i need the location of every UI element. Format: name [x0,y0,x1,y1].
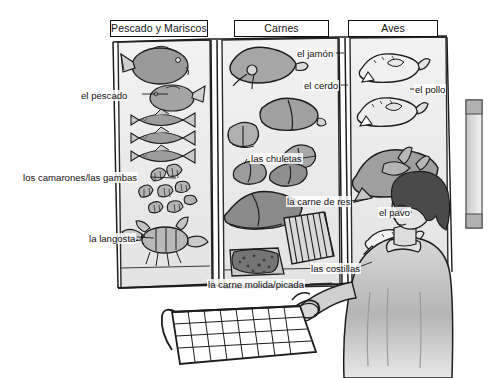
label-las-costillas: las costillas [310,263,361,274]
case-divider-1b [217,40,219,287]
category-header-carnes: Carnes [234,20,329,37]
label-las-chuletas: las chuletas [250,153,303,164]
shopping-basket [162,293,320,364]
label-el-pollo: el pollo [414,84,446,95]
label-la-carne-de-res: la carne de res [286,196,351,207]
chop-1 [228,122,259,147]
case-divider-2b [345,38,348,284]
ground-meat [230,248,284,276]
label-el-pavo: el pavo [378,207,411,218]
label-la-langosta: la langosta [88,233,136,244]
artwork-layer [0,0,489,378]
label-el-cerdo: el cerdo [303,80,339,91]
category-header-pescado-y-mariscos: Pescado y Mariscos [110,20,208,37]
label-los-camarones-las-gambas: los camarones/las gambas [22,172,138,183]
label-la-carne-molida-picada: la carne molida/picada [207,279,305,290]
illustration-scene: Pescado y Mariscos Carnes Aves el pescad… [0,0,489,378]
basket-handle-grip [292,293,310,300]
label-el-pescado: el pescado [80,90,128,101]
category-header-aves: Aves [348,20,438,37]
case-edge-left [113,42,118,288]
adjacent-case-edge [466,100,482,228]
ribs [284,212,334,264]
label-el-jamon: el jamón [296,48,334,59]
